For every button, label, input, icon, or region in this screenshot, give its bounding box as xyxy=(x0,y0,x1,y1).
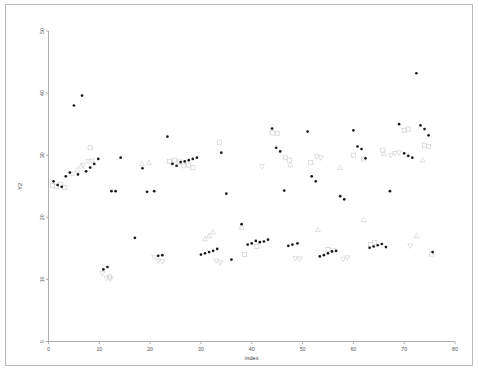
data-point-filled-circle xyxy=(287,245,290,248)
data-point-filled-circle xyxy=(327,252,330,255)
data-point-filled-circle xyxy=(263,240,266,243)
data-point-open-triangle-up xyxy=(139,161,144,166)
data-point-filled-circle xyxy=(153,190,156,193)
data-point-open-square xyxy=(402,128,406,132)
data-point-filled-circle xyxy=(200,253,203,256)
data-point-filled-circle xyxy=(216,248,219,251)
series-square-series xyxy=(50,127,433,279)
data-point-filled-circle xyxy=(179,161,182,164)
data-point-open-triangle-down xyxy=(218,261,223,266)
data-point-filled-circle xyxy=(208,251,211,254)
series-triangle-down-series xyxy=(81,151,413,282)
label-layer: 0102030405060708001020304050indexY2 xyxy=(17,28,458,361)
data-point-filled-circle xyxy=(110,190,113,193)
data-point-open-triangle-down xyxy=(259,165,264,170)
data-point-open-triangle-down xyxy=(100,271,105,276)
data-point-filled-circle xyxy=(68,171,71,174)
data-point-filled-circle xyxy=(212,249,215,252)
y-tick-label: 20 xyxy=(39,214,45,220)
data-point-filled-circle xyxy=(310,175,313,178)
data-point-open-square xyxy=(309,161,313,165)
data-point-filled-circle xyxy=(64,175,67,178)
data-point-filled-circle xyxy=(141,167,144,170)
data-point-filled-circle xyxy=(407,154,410,157)
data-point-filled-circle xyxy=(368,246,371,249)
data-point-filled-circle xyxy=(89,166,92,169)
data-point-open-square xyxy=(191,166,195,170)
data-point-filled-circle xyxy=(97,158,100,161)
data-point-filled-circle xyxy=(196,156,199,159)
x-tick-label: 70 xyxy=(401,346,407,352)
data-point-open-triangle-up xyxy=(288,162,293,167)
data-point-open-square xyxy=(426,144,430,148)
data-point-open-square xyxy=(50,184,54,188)
y-tick-label: 50 xyxy=(39,28,45,34)
x-axis-title: index xyxy=(245,355,259,361)
data-point-filled-circle xyxy=(187,159,190,162)
axis-layer xyxy=(46,31,455,344)
data-point-filled-circle xyxy=(385,246,388,249)
data-point-open-triangle-down xyxy=(86,160,91,165)
data-point-filled-circle xyxy=(291,243,294,246)
data-point-filled-circle xyxy=(77,173,80,176)
data-point-filled-circle xyxy=(102,268,105,271)
plot-area: 0102030405060708001020304050indexY2 xyxy=(0,0,478,372)
data-point-filled-circle xyxy=(335,249,338,252)
x-tick-label: 80 xyxy=(452,346,458,352)
data-point-filled-circle xyxy=(225,192,228,195)
data-point-filled-circle xyxy=(204,252,207,255)
data-point-open-square xyxy=(275,131,279,135)
x-tick-label: 50 xyxy=(300,346,306,352)
data-point-filled-circle xyxy=(119,156,122,159)
data-point-filled-circle xyxy=(356,145,359,148)
data-point-filled-circle xyxy=(323,254,326,257)
data-point-filled-circle xyxy=(427,134,430,137)
data-point-open-triangle-up xyxy=(211,230,216,235)
y-axis-title: Y2 xyxy=(17,183,23,190)
data-point-filled-circle xyxy=(73,104,76,107)
data-point-filled-circle xyxy=(398,123,401,126)
data-point-filled-circle xyxy=(134,236,137,239)
x-tick-label: 0 xyxy=(47,346,50,352)
data-point-open-triangle-down xyxy=(388,153,393,158)
data-point-filled-circle xyxy=(339,195,342,198)
data-point-open-triangle-up xyxy=(414,233,419,238)
data-point-open-triangle-down xyxy=(397,151,402,156)
data-point-filled-circle xyxy=(146,190,149,193)
data-point-open-square xyxy=(351,153,355,157)
data-point-filled-circle xyxy=(343,198,346,201)
marker-layer xyxy=(50,72,434,282)
data-point-filled-circle xyxy=(240,223,243,226)
x-tick-label: 10 xyxy=(96,346,102,352)
data-point-filled-circle xyxy=(360,148,363,151)
data-point-open-triangle-up xyxy=(361,217,366,222)
data-point-filled-circle xyxy=(415,72,418,75)
y-tick-label: 30 xyxy=(39,152,45,158)
data-point-open-triangle-up xyxy=(315,227,320,232)
scatter-plot-svg: 0102030405060708001020304050indexY2 xyxy=(0,0,478,372)
data-point-filled-circle xyxy=(380,243,383,246)
data-point-open-triangle-down xyxy=(408,244,413,249)
data-point-filled-circle xyxy=(372,245,375,248)
data-point-open-square xyxy=(182,164,186,168)
x-tick-label: 20 xyxy=(147,346,153,352)
data-point-filled-circle xyxy=(171,163,174,166)
data-point-filled-circle xyxy=(267,238,270,241)
data-point-filled-circle xyxy=(275,146,278,149)
data-point-filled-circle xyxy=(306,130,309,133)
data-point-open-square xyxy=(406,127,410,131)
data-point-filled-circle xyxy=(389,190,392,193)
data-point-filled-circle xyxy=(166,135,169,138)
data-point-open-triangle-down xyxy=(341,257,346,262)
data-point-filled-circle xyxy=(271,127,274,130)
data-point-filled-circle xyxy=(56,184,59,187)
data-point-filled-circle xyxy=(250,242,253,245)
data-point-filled-circle xyxy=(283,189,286,192)
data-point-filled-circle xyxy=(259,241,262,244)
data-point-open-square xyxy=(167,159,171,163)
data-point-open-square xyxy=(326,247,330,251)
data-point-filled-circle xyxy=(60,186,63,189)
data-point-filled-circle xyxy=(331,250,334,253)
data-point-open-triangle-up xyxy=(420,157,425,162)
data-point-filled-circle xyxy=(376,244,379,247)
